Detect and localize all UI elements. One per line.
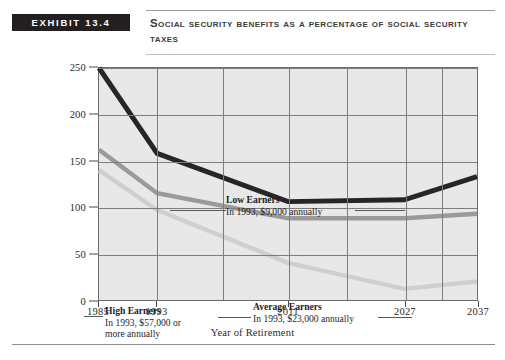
annotation-leader-line xyxy=(170,210,226,211)
chart-gridline-vertical xyxy=(442,68,443,300)
y-axis-tick-label: 200 xyxy=(46,108,86,119)
title-rule-bottom xyxy=(146,54,495,55)
annotation-leader-line xyxy=(218,317,251,318)
x-axis-tick-label: 2037 xyxy=(467,306,489,317)
chart-gridline-vertical xyxy=(347,68,348,300)
annotation-average-earners-detail: In 1993, $23,000 annually xyxy=(253,313,354,325)
x-axis-tick-label: 2027 xyxy=(394,306,416,317)
title-rule-top xyxy=(146,10,495,11)
exhibit-number-badge: EXHIBIT 13.4 xyxy=(12,14,130,31)
y-axis-tick-mark xyxy=(89,301,98,302)
chart-gridline-horizontal xyxy=(99,255,477,256)
annotation-high-earners: High Earners In 1993, $57,000 or more an… xyxy=(105,305,181,340)
annotation-low-earners-heading: Low Earners xyxy=(226,194,322,206)
annotation-leader-line xyxy=(378,317,412,318)
annotation-average-earners: Average Earners In 1993, $23,000 annuall… xyxy=(253,301,354,324)
chart-gridline-vertical xyxy=(406,68,407,300)
annotation-low-earners-detail: In 1993, $9,000 annually xyxy=(226,206,322,218)
chart-series-layer xyxy=(99,68,477,300)
chart-gridline-vertical xyxy=(223,68,224,300)
chart-gridline-horizontal xyxy=(99,115,477,116)
x-axis-tick-mark xyxy=(405,301,406,307)
y-axis-tick-mark xyxy=(89,113,98,114)
chart-gridline-horizontal xyxy=(99,68,477,69)
exhibit-header: EXHIBIT 13.4 Social Security Benefits as… xyxy=(0,10,505,56)
annotation-leader-line xyxy=(355,210,405,211)
annotation-low-earners: Low Earners In 1993, $9,000 annually xyxy=(226,194,322,217)
x-axis-tick-mark xyxy=(98,301,99,307)
chart-series-line-low-earners xyxy=(99,68,477,202)
y-axis-tick-label: 100 xyxy=(46,202,86,213)
annotation-high-earners-detail-line2: more annually xyxy=(105,328,181,340)
y-axis-tick-label: 250 xyxy=(46,62,86,73)
y-axis-tick-mark xyxy=(89,254,98,255)
x-axis-tick-mark xyxy=(478,301,479,307)
annotation-leader-line xyxy=(84,316,103,317)
annotation-average-earners-heading: Average Earners xyxy=(253,301,354,313)
y-axis-tick-label: 150 xyxy=(46,155,86,166)
chart-series-line-high-earners xyxy=(99,170,477,289)
page-title: Social Security Benefits as a Percentage… xyxy=(150,16,495,46)
chart-plot-area xyxy=(98,67,478,301)
chart-gridline-vertical xyxy=(289,68,290,300)
y-axis-tick-label: 50 xyxy=(46,249,86,260)
y-axis-tick-mark xyxy=(89,160,98,161)
chart-gridline-horizontal xyxy=(99,162,477,163)
chart-container: 050100150200250 19851993201120272037 Yea… xyxy=(0,58,505,323)
y-axis-tick-mark xyxy=(89,67,98,68)
chart-gridline-vertical xyxy=(157,68,158,300)
y-axis-tick-label: 0 xyxy=(46,296,86,307)
footer-divider xyxy=(12,344,495,345)
y-axis-tick-mark xyxy=(89,207,98,208)
annotation-high-earners-heading: High Earners xyxy=(105,305,181,317)
x-axis-title: Year of Retirement xyxy=(0,327,505,338)
annotation-high-earners-detail-line1: In 1993, $57,000 or xyxy=(105,317,181,329)
exhibit-page: EXHIBIT 13.4 Social Security Benefits as… xyxy=(0,0,505,360)
